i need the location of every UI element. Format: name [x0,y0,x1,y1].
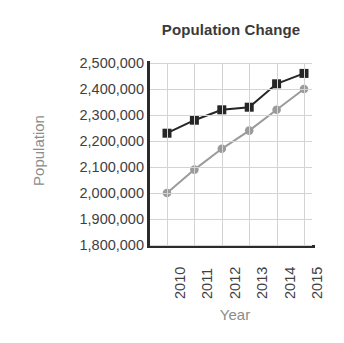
gridline-horizontal [150,193,312,194]
gridline-vertical [222,63,223,245]
y-tick-label: 1,800,000 [44,238,144,253]
gridline-vertical [277,63,278,245]
y-tick-label: 2,100,000 [44,160,144,175]
x-tick-label: 2015 [310,247,325,299]
x-tick-label: 2011 [200,247,215,299]
y-tick-label: 2,300,000 [44,108,144,123]
gridline-horizontal [150,141,312,142]
gridline-vertical [194,63,195,245]
data-series-layer [150,63,312,245]
gridline-horizontal [150,63,312,64]
gridline-horizontal [150,245,312,246]
gridline-horizontal [150,167,312,168]
gridline-horizontal [150,219,312,220]
gridline-vertical [167,63,168,245]
x-axis-title: Year [150,306,320,323]
x-tick-label: 2014 [283,247,298,299]
population-change-chart: Population Change Population 2,500,0002,… [0,0,344,343]
y-tick-label: 2,000,000 [44,186,144,201]
x-tick-label: 2013 [255,247,270,299]
x-tick-label: 2010 [173,247,188,299]
series-line-series-1 [167,73,304,133]
gridline-vertical [249,63,250,245]
gridline-horizontal [150,115,312,116]
x-tick-label: 2012 [228,247,243,299]
chart-title: Population Change [131,21,331,38]
gridline-horizontal [150,89,312,90]
y-tick-label: 2,400,000 [44,82,144,97]
x-axis-tick-labels: 201020112012201320142015 [150,249,320,304]
y-tick-label: 1,900,000 [44,212,144,227]
gridline-vertical [304,63,305,245]
y-tick-label: 2,200,000 [44,134,144,149]
plot-area [150,63,312,245]
y-tick-label: 2,500,000 [44,56,144,71]
